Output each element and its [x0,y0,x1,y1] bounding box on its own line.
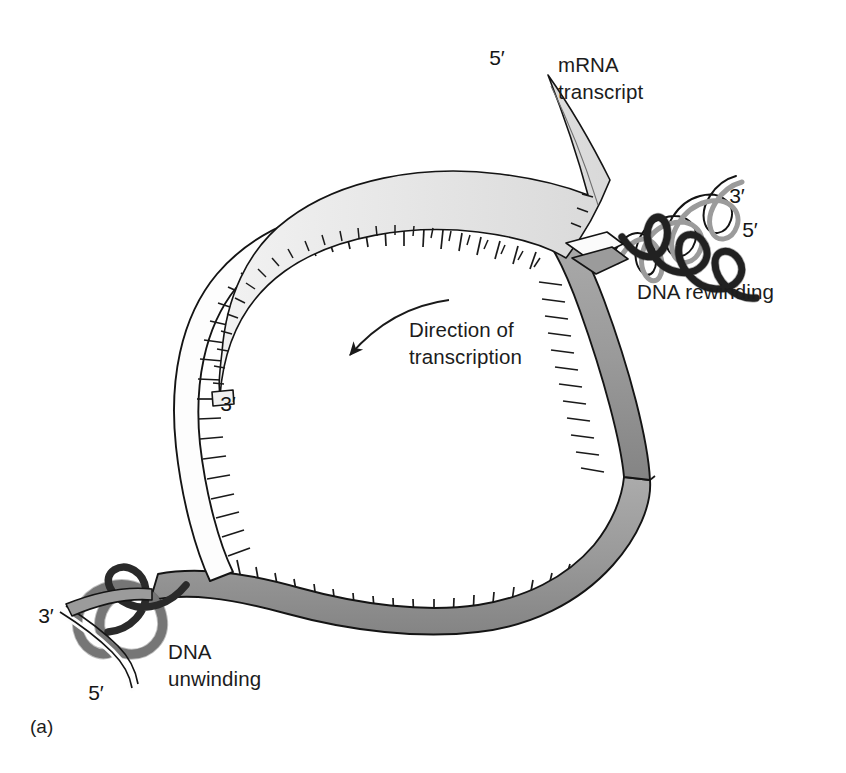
mrna-three-prime-label: 3′ [220,392,236,415]
transcription-diagram-figure: 5′ mRNA transcript 3′ 5′ DNA rewinding D… [0,0,846,773]
mrna-five-prime-label: 5′ [489,46,505,69]
unwinding-five-prime-label: 5′ [88,681,104,704]
dna-rewinding-label: DNA rewinding [637,280,774,303]
dna-unwinding-label-line1: DNA [168,640,212,663]
direction-of-transcription-label-line1: Direction of [409,318,514,341]
rewinding-three-prime-label: 3′ [729,184,745,207]
dna-unwinding-label-line2: unwinding [168,667,261,690]
transcription-diagram-svg: 5′ mRNA transcript 3′ 5′ DNA rewinding D… [0,0,846,773]
unwinding-three-prime-label: 3′ [38,604,54,627]
rewinding-five-prime-label: 5′ [742,218,758,241]
mrna-transcript-label-line2: transcript [558,80,644,103]
mrna-transcript-label-line1: mRNA [558,53,619,76]
direction-of-transcription-label-line2: transcription [409,345,522,368]
panel-label: (a) [30,716,53,737]
